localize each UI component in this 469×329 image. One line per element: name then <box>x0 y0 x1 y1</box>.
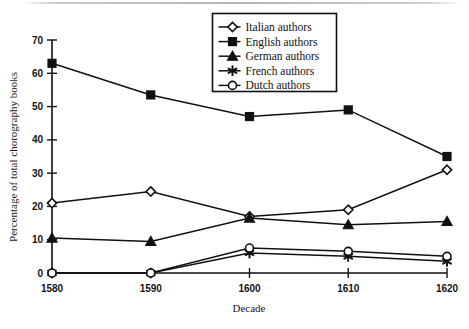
x-tick-label: 1600 <box>238 283 261 294</box>
data-point <box>147 91 155 99</box>
x-tick-label: 1590 <box>140 283 163 294</box>
data-point <box>48 59 56 67</box>
chart-legend: Italian authorsEnglish authorsGerman aut… <box>213 14 337 92</box>
legend-item-label: French authors <box>246 65 315 77</box>
y-tick-label: 70 <box>32 35 44 46</box>
y-axis-tick-labels: 010203040506070 <box>32 35 44 279</box>
legend-marker-icon <box>229 81 237 89</box>
data-point <box>246 244 254 252</box>
data-point <box>48 269 56 277</box>
y-tick-label: 20 <box>32 201 44 212</box>
chart-page: 010203040506070 15801590160016101620 Per… <box>0 0 469 329</box>
y-axis-title: Percentage of total chorography books <box>7 72 19 242</box>
y-tick-label: 10 <box>32 234 44 245</box>
x-axis-tick-labels: 15801590160016101620 <box>41 283 459 294</box>
data-point <box>146 187 155 196</box>
data-point <box>246 113 254 121</box>
x-tick-label: 1620 <box>436 283 459 294</box>
legend-item-label: German authors <box>246 50 320 62</box>
line-chart: 010203040506070 15801590160016101620 Per… <box>0 0 469 329</box>
x-tick-label: 1610 <box>337 283 360 294</box>
y-tick-label: 60 <box>32 68 44 79</box>
legend-item-italian-authors[interactable]: Italian authors <box>219 21 313 33</box>
data-point <box>344 106 352 114</box>
x-axis-title: Decade <box>233 302 266 314</box>
series-german-authors <box>47 213 452 245</box>
legend-item-french-authors[interactable]: French authors <box>219 65 315 77</box>
y-tick-label: 40 <box>32 134 44 145</box>
y-tick-label: 30 <box>32 168 44 179</box>
y-tick-label: 50 <box>32 101 44 112</box>
y-tick-label: 0 <box>37 268 43 279</box>
data-point <box>147 269 155 277</box>
data-point <box>344 247 352 255</box>
data-point <box>443 252 451 260</box>
data-point <box>443 153 451 161</box>
legend-item-label: Italian authors <box>246 21 313 33</box>
x-tick-label: 1580 <box>41 283 64 294</box>
data-point <box>442 165 451 174</box>
data-point <box>344 205 353 214</box>
legend-marker-icon <box>229 38 237 46</box>
legend-item-dutch-authors[interactable]: Dutch authors <box>219 79 311 91</box>
series-polyline <box>52 170 447 217</box>
legend-item-label: English authors <box>246 36 318 49</box>
legend-item-label: Dutch authors <box>246 79 311 91</box>
